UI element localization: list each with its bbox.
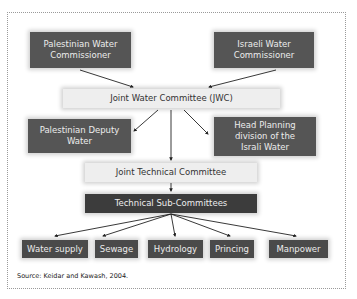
node-water-supply: Water supply	[22, 240, 88, 258]
node-head-planning-israeli-water: Head Planning division of the Israli Wat…	[214, 117, 316, 156]
source-caption: Source: Keidar and Kawash, 2004.	[17, 272, 128, 280]
node-manpower: Manpower	[269, 240, 328, 258]
node-technical-sub-committees: Technical Sub-Committees	[85, 194, 257, 213]
node-joint-water-committee: Joint Water Committee (JWC)	[63, 89, 280, 108]
node-sewage: Sewage	[95, 240, 138, 258]
node-pricing: Princing	[210, 240, 254, 258]
node-joint-technical-committee: Joint Technical Committee	[85, 163, 257, 182]
node-palestinian-water-commissioner: Palestinian Water Commissioner	[30, 32, 131, 68]
node-israeli-water-commissioner: Israeli Water Commissioner	[214, 32, 314, 68]
node-palestinian-deputy-water: Palestinian Deputy Water	[28, 119, 131, 153]
node-hydrology: Hydrology	[148, 240, 203, 258]
